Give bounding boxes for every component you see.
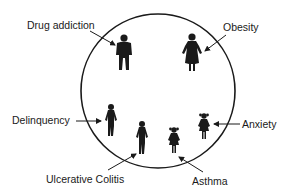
arrow-ulcerative-colitis — [108, 154, 136, 170]
figure-child-colitis-icon — [136, 121, 148, 154]
arrow-drug-addiction — [90, 31, 115, 45]
figure-mother-icon — [182, 33, 202, 71]
label-anxiety: Anxiety — [242, 118, 276, 130]
label-obesity: Obesity — [223, 21, 259, 33]
label-drug-addiction: Drug addiction — [27, 19, 95, 31]
figure-father-icon — [116, 34, 132, 70]
family-circle — [81, 14, 235, 168]
figure-child-asthma-icon — [168, 127, 180, 153]
family-diagram: Drug addiction Obesity Delinquency Anxie… — [0, 0, 292, 195]
figure-child-anxiety-icon — [198, 113, 210, 139]
label-delinquency: Delinquency — [12, 114, 70, 126]
label-asthma: Asthma — [192, 175, 228, 187]
figure-child-delinquency-icon — [105, 104, 117, 136]
label-ulcerative-colitis: Ulcerative Colitis — [46, 173, 124, 185]
